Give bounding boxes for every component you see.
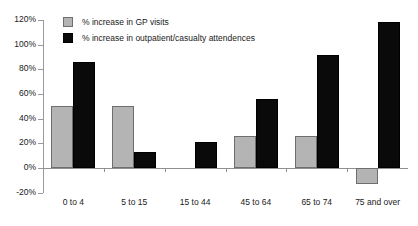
legend-item-outpatient-attendences: % increase in outpatient/casualty attend… (63, 30, 255, 46)
y-axis-tick-label: 100% (0, 40, 36, 49)
bar (378, 22, 400, 167)
bar (234, 136, 256, 168)
chart-legend: % increase in GP visits % increase in ou… (63, 14, 255, 46)
y-axis-tick (38, 94, 43, 95)
y-axis-tick-label: 120% (0, 15, 36, 24)
bar (73, 62, 95, 168)
y-axis-tick-label: -20% (0, 188, 36, 197)
bar-chart: 120%100%80%60%40%20%0%-20% 0 to 45 to 15… (0, 0, 418, 226)
x-axis-tick (226, 168, 227, 172)
y-axis-tick-label: 0% (0, 163, 36, 172)
legend-item-gp-visits: % increase in GP visits (63, 14, 255, 30)
y-axis-tick (38, 45, 43, 46)
bar (195, 142, 217, 168)
x-axis-tick (286, 168, 287, 172)
y-axis-tick-label: 20% (0, 138, 36, 147)
x-axis-tick (104, 168, 105, 172)
bar (256, 99, 278, 168)
y-axis-tick (38, 69, 43, 70)
bar (112, 106, 134, 168)
bar (356, 168, 378, 184)
y-axis-tick-label: 80% (0, 64, 36, 73)
legend-item-label: % increase in outpatient/casualty attend… (82, 34, 255, 43)
x-axis-tick (347, 168, 348, 172)
y-axis-tick-label: 60% (0, 89, 36, 98)
x-axis-tick (165, 168, 166, 172)
bar (295, 136, 317, 168)
legend-item-label: % increase in GP visits (82, 18, 169, 27)
y-axis-tick (38, 20, 43, 21)
x-axis-category-label: 75 and over (338, 198, 418, 207)
y-axis-tick (38, 143, 43, 144)
grey-swatch-icon (63, 17, 73, 27)
y-axis-tick (38, 193, 43, 194)
bar (51, 106, 73, 168)
y-axis-tick (38, 119, 43, 120)
bar (317, 55, 339, 168)
y-axis-tick-label: 40% (0, 114, 36, 123)
bar (134, 152, 156, 168)
black-swatch-icon (63, 33, 73, 43)
